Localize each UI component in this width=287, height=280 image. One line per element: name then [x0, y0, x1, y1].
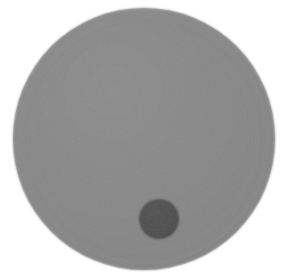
image-canvas [0, 0, 287, 280]
small-disc-grain-overlay [140, 200, 178, 238]
scene-svg [0, 0, 287, 280]
